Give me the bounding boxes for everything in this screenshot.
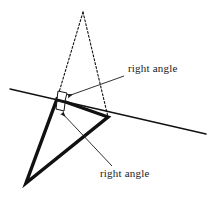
diagram-canvas: right angle right angle [0, 0, 212, 198]
right-angle-label-upper: right angle [128, 62, 178, 74]
transversal-line [10, 89, 206, 134]
dotted-triangle-left-leg [57, 12, 83, 99]
bold-triangle [26, 99, 108, 183]
annotation-arrow-upper [68, 76, 124, 96]
geometry-figure: right angle right angle [0, 0, 212, 198]
right-angle-mark-lower-icon [56, 101, 65, 111]
right-angle-mark-upper-icon [57, 91, 67, 101]
right-angle-label-lower: right angle [100, 167, 150, 179]
dotted-triangle-right-leg [83, 12, 108, 117]
